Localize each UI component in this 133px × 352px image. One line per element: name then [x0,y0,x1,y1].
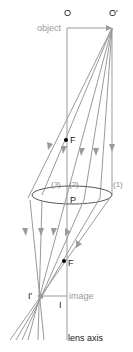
ray-1-arrow-icon [109,144,115,152]
ray-a-refracted [16,198,100,340]
ray-b-arrow-icon [79,148,85,156]
focal-point-upper-dot [64,138,68,142]
ray-3-refracted-arrow-icon [22,228,28,236]
label-i: I [59,300,62,310]
label-object: object [37,23,61,33]
label-o: O [64,8,71,18]
label-image: image [69,291,94,301]
label-ray-1: (1) [113,180,123,190]
ray-2 [67,28,112,195]
focal-point-lower-dot [62,259,66,263]
label-focal-lower: F [68,258,74,268]
label-i-prime: I' [28,291,32,301]
label-o-prime: O' [109,8,118,18]
label-lens-axis: lens axis [68,333,103,343]
ray-3-incoming [28,28,112,198]
ray-b [84,28,112,200]
ray-c-refracted-arrow-icon [38,228,44,236]
label-focal-upper: F [70,135,76,145]
ray-a-arrow-icon [93,148,99,156]
label-ray-3: (3) [51,180,61,190]
ray-b-refracted-arrow-icon [65,228,71,236]
label-principal-point: P [70,195,76,205]
label-ray-2: (2) [69,180,79,190]
ray-b-refracted [22,200,84,340]
lens-ray-diagram [0,0,133,352]
